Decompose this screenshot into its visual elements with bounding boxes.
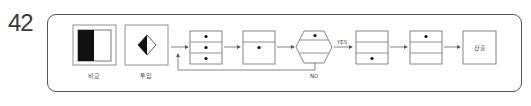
box4-top-dot xyxy=(410,31,442,64)
half-black-square-icon xyxy=(78,30,111,61)
yes-label: YES xyxy=(336,39,348,45)
dot-icon xyxy=(204,35,207,38)
compare-legend-box xyxy=(73,25,116,65)
input-label: 투입 xyxy=(126,71,166,80)
box2-one-dot xyxy=(243,31,275,64)
flow-diagram: YES NO 산출 xyxy=(0,0,531,106)
output-box: 산출 xyxy=(463,31,496,64)
compare-label: 비교 xyxy=(74,71,114,80)
no-label: NO xyxy=(310,73,319,79)
dot-icon xyxy=(204,46,207,49)
decision-hexagon xyxy=(296,31,332,63)
dot-icon xyxy=(313,34,316,37)
dot-icon xyxy=(424,35,427,38)
box1-three-dots xyxy=(190,31,222,64)
dot-icon xyxy=(204,57,207,60)
dot-icon xyxy=(257,46,260,49)
input-legend-box xyxy=(125,25,168,65)
output-label: 산출 xyxy=(474,44,486,51)
dot-icon xyxy=(370,57,373,60)
box3-bottom-dot xyxy=(356,31,388,64)
